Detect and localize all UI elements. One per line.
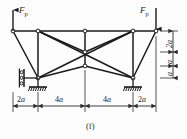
left-roller-wheels bbox=[20, 71, 23, 85]
horizontal-dim-label-2a-left: 2a bbox=[17, 96, 25, 104]
vertical-dimension-group bbox=[160, 31, 178, 78]
joint-D bbox=[131, 29, 135, 33]
truss-diagram-canvas bbox=[0, 0, 187, 139]
vertical-dim-label-2a: 2a bbox=[166, 40, 174, 48]
member-H-G bbox=[38, 66, 85, 78]
horizontal-dim-label-2a-right: 2a bbox=[138, 96, 146, 104]
left-load-label: Fp bbox=[19, 6, 28, 17]
left-roller-wheel-1 bbox=[20, 71, 23, 74]
vertical-dim-extension-lines bbox=[160, 31, 178, 78]
member-A-H bbox=[13, 31, 38, 78]
joint-B bbox=[36, 29, 40, 33]
horizontal-dim-label-4a-left: 4a bbox=[55, 96, 63, 104]
joint-E bbox=[154, 29, 158, 33]
right-load-label: Fp bbox=[140, 6, 149, 17]
horizontal-dim-label-4a-right: 4a bbox=[103, 96, 111, 104]
left-roller-wheel-2 bbox=[20, 76, 23, 79]
applied-loads bbox=[13, 8, 156, 31]
joint-F bbox=[83, 50, 87, 54]
vertical-dim-label-a-lower: a bbox=[166, 72, 174, 76]
figure-container: Fp Fp 2a a a 2a 4a 4a 2a (f) bbox=[0, 0, 187, 139]
left-roller-wheel-3 bbox=[20, 82, 23, 85]
truss-members bbox=[13, 31, 156, 78]
support-left-pin bbox=[28, 78, 47, 91]
support-right-pin bbox=[123, 78, 142, 91]
member-E-I bbox=[133, 31, 156, 78]
joint-C bbox=[83, 29, 87, 33]
vertical-dim-label-a-upper: a bbox=[166, 60, 174, 64]
member-G-I bbox=[85, 66, 133, 78]
joint-G bbox=[83, 64, 87, 68]
figure-caption: (f) bbox=[86, 122, 95, 131]
